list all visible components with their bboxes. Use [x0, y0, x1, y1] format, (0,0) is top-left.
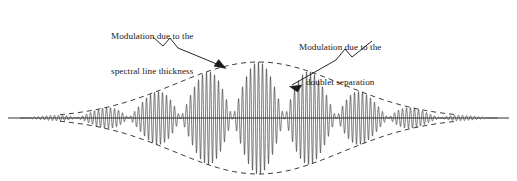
spectral-line-arrowhead [214, 60, 226, 69]
annotation-doublet-line-2: doublet separation [299, 77, 381, 89]
annotation-doublet-line-1: Modulation due to the [299, 42, 381, 54]
annotation-spectral-line-1: Modulation due to the [111, 31, 193, 43]
lower-envelope-curve [60, 121, 458, 174]
interferogram-plot [0, 0, 517, 181]
interferogram-figure: Modulation due to the spectral line thic… [0, 0, 517, 181]
annotation-spectral-line-2: spectral line thickness [111, 66, 193, 78]
annotation-spectral-line-thickness: Modulation due to the spectral line thic… [111, 8, 193, 100]
annotation-doublet-separation: Modulation due to the doublet separation [299, 19, 381, 111]
